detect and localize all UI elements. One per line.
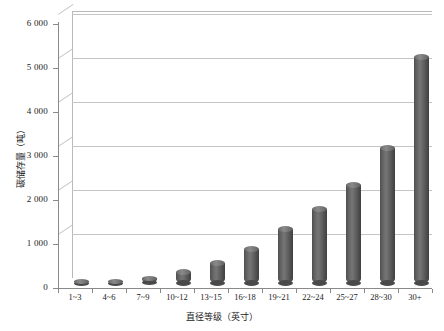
x-axis-tick-label: 10~12 xyxy=(166,292,188,302)
x-axis-tick xyxy=(92,289,93,293)
bar-top-cap xyxy=(210,260,225,266)
grid-riser xyxy=(58,190,73,201)
bar-body xyxy=(278,229,293,283)
grid-riser xyxy=(58,102,73,113)
x-axis-tick xyxy=(398,289,399,293)
bar xyxy=(108,281,123,284)
gridline xyxy=(72,146,432,147)
x-axis-tick-label: 7~9 xyxy=(136,292,149,302)
gridline xyxy=(72,190,432,191)
bar-top-cap xyxy=(74,279,89,284)
y-axis-line xyxy=(58,22,59,288)
x-axis-tick-label: 13~15 xyxy=(200,292,222,302)
bar-body xyxy=(346,185,361,284)
x-axis-tick-label: 19~21 xyxy=(268,292,290,302)
x-axis-tick-label: 22~24 xyxy=(302,292,324,302)
bar xyxy=(414,57,429,284)
x-axis-tick xyxy=(194,289,195,293)
bar-body xyxy=(414,57,429,284)
grid-riser xyxy=(58,58,73,69)
y-axis-tick-label: 0 xyxy=(0,283,48,292)
bar xyxy=(176,272,191,284)
y-axis-title: 碳储存量（吨） xyxy=(14,107,27,207)
x-axis-tick-label: 30+ xyxy=(408,292,421,302)
gridline xyxy=(72,58,432,59)
y-axis-tick-label: 6 000 xyxy=(0,19,48,28)
gridline xyxy=(72,234,432,235)
grid-riser xyxy=(58,234,73,245)
bar-top-cap xyxy=(346,182,361,188)
bar-top-cap xyxy=(108,279,123,284)
x-axis-tick xyxy=(126,289,127,293)
y-axis-tick-label: 5 000 xyxy=(0,63,48,72)
bar xyxy=(346,185,361,284)
x-axis-tick xyxy=(296,289,297,293)
x-axis-tick-label: 25~27 xyxy=(336,292,358,302)
x-axis-title: 直径等级（英寸） xyxy=(0,310,444,323)
bar xyxy=(380,148,395,284)
x-axis-tick-label: 16~18 xyxy=(234,292,256,302)
x-axis-tick-label: 4~6 xyxy=(102,292,115,302)
bar xyxy=(142,278,157,283)
bar xyxy=(312,209,327,283)
x-axis-tick xyxy=(364,289,365,293)
bar-body xyxy=(244,249,259,283)
y-axis-tick-label: 1 000 xyxy=(0,239,48,248)
bar xyxy=(278,229,293,283)
bar-top-cap xyxy=(414,54,429,60)
bar-top-cap xyxy=(380,145,395,151)
grid-riser xyxy=(58,146,73,157)
bar xyxy=(244,249,259,283)
bar-top-cap xyxy=(176,269,191,275)
x-axis-tick xyxy=(262,289,263,293)
gridline xyxy=(72,14,432,15)
grid-riser xyxy=(58,14,73,25)
x-axis-tick xyxy=(432,289,433,293)
bar-body xyxy=(380,148,395,284)
bar xyxy=(74,281,89,284)
plot-back-wall xyxy=(72,11,432,278)
bar-top-cap xyxy=(312,206,327,212)
x-axis-line xyxy=(58,288,432,289)
bar-chart: 01 0002 0003 0004 0005 0006 000 1~34~67~… xyxy=(0,0,444,331)
x-axis-tick xyxy=(228,289,229,293)
bar-body xyxy=(312,209,327,283)
x-axis-tick xyxy=(330,289,331,293)
x-axis-tick xyxy=(160,289,161,293)
gridline xyxy=(72,102,432,103)
bar xyxy=(210,263,225,284)
x-axis-tick xyxy=(58,289,59,293)
x-axis-tick-label: 28~30 xyxy=(370,292,392,302)
x-axis-tick-label: 1~3 xyxy=(68,292,81,302)
